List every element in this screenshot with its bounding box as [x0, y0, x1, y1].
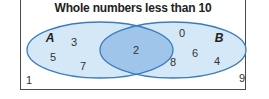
- element-5: 5: [50, 52, 56, 63]
- element-9: 9: [239, 73, 245, 84]
- element-8: 8: [170, 57, 176, 68]
- set-a-label: A: [46, 32, 55, 44]
- element-0: 0: [179, 28, 185, 39]
- element-2: 2: [133, 45, 139, 56]
- element-6: 6: [192, 48, 198, 59]
- element-3: 3: [71, 37, 77, 48]
- set-b-label: B: [215, 32, 224, 44]
- element-4: 4: [214, 56, 220, 67]
- element-1: 1: [26, 75, 32, 86]
- element-7: 7: [80, 61, 86, 72]
